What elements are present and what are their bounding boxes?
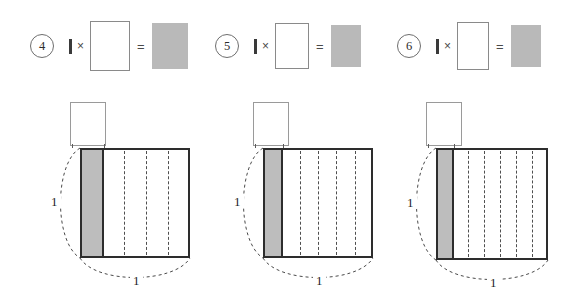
partition-dashed-line bbox=[500, 151, 501, 257]
callout-connector-left bbox=[428, 144, 429, 148]
height-dimension-label: 1 bbox=[404, 196, 417, 209]
partition-dashed-line bbox=[146, 151, 147, 255]
callout-connector-right bbox=[104, 144, 105, 148]
answer-input-box[interactable] bbox=[275, 23, 309, 69]
partition-dashed-line bbox=[532, 151, 533, 257]
partition-dashed-line bbox=[318, 151, 319, 255]
width-dimension-label: 1 bbox=[313, 274, 326, 287]
fraction-answer-box[interactable] bbox=[70, 102, 106, 146]
callout-connector-right bbox=[283, 144, 284, 148]
area-model-4: 11 bbox=[62, 92, 210, 286]
partition-dashed-line bbox=[300, 151, 301, 255]
height-dimension-label: 1 bbox=[48, 195, 61, 208]
fraction-answer-box[interactable] bbox=[253, 102, 289, 146]
partition-dashed-line bbox=[468, 151, 469, 257]
product-shaded-rectangle bbox=[152, 23, 188, 69]
shaded-unit-fraction-column bbox=[82, 150, 104, 256]
partition-dashed-line bbox=[124, 151, 125, 255]
partition-dashed-line bbox=[168, 151, 169, 255]
unit-one-bar-icon bbox=[254, 39, 257, 54]
problem-number-badge: 4 bbox=[30, 34, 54, 58]
equals-symbol: = bbox=[316, 39, 324, 54]
height-dimension-label: 1 bbox=[231, 195, 244, 208]
height-dimension-arc bbox=[61, 148, 81, 258]
area-model-5: 11 bbox=[245, 92, 393, 286]
width-dimension-label: 1 bbox=[487, 276, 500, 289]
callout-connector-left bbox=[255, 144, 256, 148]
equals-symbol: = bbox=[496, 39, 504, 54]
height-dimension-arc bbox=[244, 148, 264, 258]
shaded-unit-fraction-column bbox=[438, 150, 454, 258]
callout-connector-right bbox=[454, 144, 455, 148]
shaded-unit-fraction-column bbox=[265, 150, 283, 256]
diagram-row: 111111 bbox=[0, 92, 570, 286]
multiplication-symbol: × bbox=[77, 39, 84, 53]
multiplication-symbol: × bbox=[262, 39, 269, 53]
partition-dashed-line bbox=[516, 151, 517, 257]
product-shaded-rectangle bbox=[511, 25, 541, 67]
answer-input-box[interactable] bbox=[457, 22, 489, 70]
callout-connector-left bbox=[72, 144, 73, 148]
partition-dashed-line bbox=[336, 151, 337, 255]
width-dimension-label: 1 bbox=[130, 274, 143, 287]
problem-number-badge: 6 bbox=[397, 34, 421, 58]
answer-input-box[interactable] bbox=[90, 21, 130, 71]
multiplication-symbol: × bbox=[444, 39, 451, 53]
product-shaded-rectangle bbox=[331, 25, 361, 67]
partition-dashed-line bbox=[484, 151, 485, 257]
unit-one-bar-icon bbox=[69, 39, 72, 54]
area-model-6: 11 bbox=[418, 92, 568, 286]
partition-dashed-line bbox=[355, 151, 356, 255]
fraction-answer-box[interactable] bbox=[426, 102, 462, 146]
problem-number-badge: 5 bbox=[215, 34, 239, 58]
height-dimension-arc bbox=[417, 148, 437, 260]
equals-symbol: = bbox=[137, 39, 145, 54]
equation-row: 4×=5×=6×= bbox=[0, 0, 570, 92]
unit-one-bar-icon bbox=[436, 39, 439, 54]
